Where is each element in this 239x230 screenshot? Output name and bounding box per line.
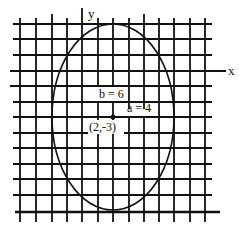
center-point	[111, 115, 116, 120]
y-axis-label: y	[88, 6, 95, 21]
x-axis-label: x	[228, 63, 235, 78]
a-label: a = 4	[127, 101, 151, 115]
center-label: (2,-3)	[89, 120, 116, 134]
b-label: b = 6	[99, 87, 124, 101]
ellipse-diagram: y x b = 6 a = 4 (2,-3)	[0, 0, 239, 230]
axes	[10, 8, 226, 222]
